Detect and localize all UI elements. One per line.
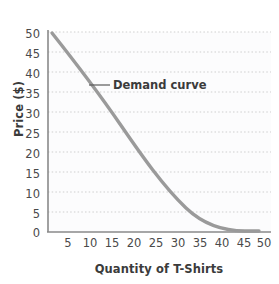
x-axis-tick-labels: 5 10 15 20 25 30 35 40 45 50 (0, 238, 279, 256)
x-axis-title: Quantity of T-Shirts (47, 262, 271, 276)
demand-curve-chart: Price ($) 50 45 40 35 30 25 20 15 10 5 0 (0, 0, 279, 284)
demand-curve-annotation: Demand curve (113, 78, 206, 92)
x-tick-label: 50 (249, 238, 279, 250)
